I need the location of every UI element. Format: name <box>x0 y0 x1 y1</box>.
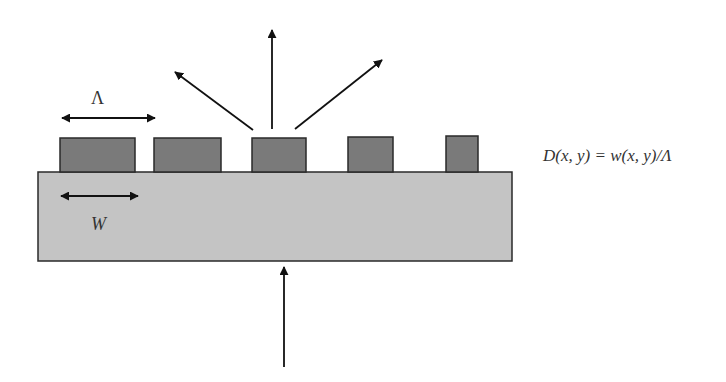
grating-posts <box>60 136 478 172</box>
grating-post-4 <box>348 137 393 172</box>
grating-post-1 <box>60 138 135 172</box>
grating-post-3 <box>252 138 306 172</box>
grating-diagram <box>0 0 726 382</box>
fill-factor-equation: D(x, y) = w(x, y)/Λ <box>543 146 671 166</box>
substrate <box>38 172 512 261</box>
width-label: W <box>91 214 106 235</box>
diffracted-right-icon <box>295 60 382 129</box>
grating-post-5 <box>446 136 478 172</box>
period-label: Λ <box>91 88 104 109</box>
diffracted-left-icon <box>175 72 253 130</box>
grating-post-2 <box>154 138 221 172</box>
